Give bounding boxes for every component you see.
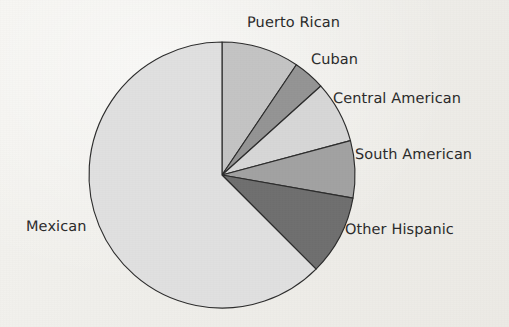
pie-slice-group xyxy=(89,42,355,308)
pie-chart-canvas xyxy=(0,0,509,327)
slice-label-mexican: Mexican xyxy=(26,220,87,235)
slice-label-puerto-rican: Puerto Rican xyxy=(247,16,340,31)
slice-label-other-hispanic: Other Hispanic xyxy=(345,223,454,238)
slice-label-central-american: Central American xyxy=(333,92,461,107)
pie-chart-figure: Puerto Rican Cuban Central American Sout… xyxy=(0,0,509,327)
slice-label-cuban: Cuban xyxy=(311,53,358,68)
slice-label-south-american: South American xyxy=(355,148,472,163)
